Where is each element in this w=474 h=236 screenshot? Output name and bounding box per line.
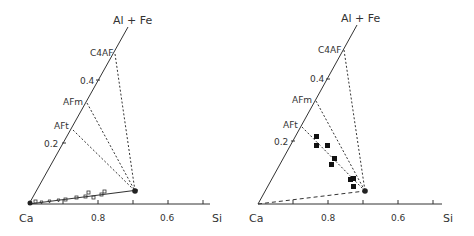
endpoint-marker xyxy=(362,188,368,194)
aft-label: AFt xyxy=(283,120,298,130)
tick-label: 0.4 xyxy=(80,76,95,86)
ca-label: Ca xyxy=(19,212,33,225)
tick-label: 0.6 xyxy=(160,213,175,223)
tick-label: 0.8 xyxy=(91,213,106,223)
c4af-label: C4AF xyxy=(90,48,113,58)
right-chart: Al + Fe C4AF 0.4 AFm AFt 0.2 Ca 0.8 0.6 … xyxy=(249,12,453,225)
tick-label: 0.2 xyxy=(274,137,288,147)
tick-label: 0.2 xyxy=(44,139,58,149)
aft-label: AFt xyxy=(54,121,69,131)
si-label: Si xyxy=(443,212,453,225)
left-chart: Al + Fe C4AF 0.4 AFm AFt 0.2 Ca 0.8 0.6 … xyxy=(19,14,222,225)
c4af-label: C4AF xyxy=(318,45,341,55)
tick-label: 0.8 xyxy=(321,213,336,223)
tick-label: 0.4 xyxy=(310,74,325,84)
si-label: Si xyxy=(212,212,222,225)
afm-label: AFm xyxy=(63,97,83,107)
afm-label: AFm xyxy=(292,95,312,105)
tick-label: 0.6 xyxy=(391,213,406,223)
endpoint-marker xyxy=(132,188,138,194)
apex-label: Al + Fe xyxy=(113,14,153,27)
ternary-charts: Al + Fe C4AF 0.4 AFm AFt 0.2 Ca 0.8 0.6 … xyxy=(0,0,474,236)
ca-label: Ca xyxy=(249,212,263,225)
apex-label: Al + Fe xyxy=(341,12,381,25)
